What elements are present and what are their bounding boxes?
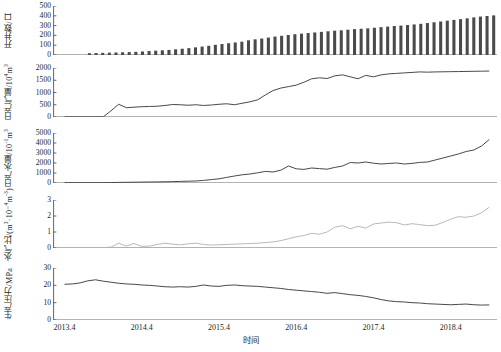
bar: [88, 53, 91, 55]
bar: [240, 42, 243, 55]
y-tick-label: 300: [40, 22, 51, 30]
data-line: [65, 71, 490, 117]
bar: [114, 52, 117, 55]
bar: [466, 18, 469, 55]
data-line: [65, 280, 490, 305]
bar: [472, 17, 475, 55]
y-axis-label-2: 日产水量/10-1m3: [2, 133, 18, 183]
bar: [227, 43, 230, 55]
y-tick-label: 0: [47, 51, 51, 59]
y-tick-label: 3000: [36, 149, 51, 157]
y-axis-label-4: 生产压力/MPa: [2, 268, 18, 320]
y-tick-label: 200: [40, 32, 51, 40]
bar: [234, 42, 237, 55]
y-axis-label-1: 日产气量/104m3: [2, 68, 18, 117]
x-axis-title: 时间: [0, 337, 501, 345]
y-axis-label-text-3: 水气比/(m3·10⁻4m-3): [6, 188, 14, 261]
bar: [194, 47, 197, 55]
y-axis-label-text-1: 日产气量/104m3: [6, 64, 14, 120]
y-ticks-2: 010002000300040005000: [18, 133, 52, 183]
y-tick-label: 3: [47, 196, 51, 204]
bar: [360, 29, 363, 55]
bar: [439, 21, 442, 55]
x-tick-label: 2017.4: [362, 324, 384, 332]
panel-1: 日产气量/104m30500100015002000: [0, 68, 501, 117]
y-tick-label: 4000: [36, 139, 51, 147]
bar: [320, 32, 323, 55]
bar: [380, 27, 383, 55]
bar: [426, 23, 429, 55]
bar: [101, 53, 104, 55]
bar: [108, 53, 111, 55]
plot-area-1: [53, 68, 497, 117]
bar: [134, 52, 137, 55]
bar: [128, 52, 131, 55]
bar: [433, 22, 436, 55]
bar: [141, 51, 144, 55]
bar: [486, 16, 489, 55]
bar: [326, 31, 329, 55]
y-tick-label: 10: [43, 299, 51, 307]
bar: [313, 32, 316, 55]
plot-area-3: [53, 200, 497, 248]
plot-area-4: [53, 268, 497, 320]
bar: [452, 20, 455, 55]
y-tick-label: 0: [47, 113, 51, 121]
x-tick-label: 2018.4: [440, 324, 462, 332]
bar: [167, 50, 170, 55]
panel-2: 日产水量/10-1m3010002000300040005000: [0, 133, 501, 183]
bar: [181, 49, 184, 55]
panel-0: 开井数/口0100200300400500: [0, 6, 501, 55]
bar: [393, 26, 396, 55]
y-tick-label: 100: [40, 41, 51, 49]
y-tick-label: 2000: [36, 64, 51, 72]
y-tick-label: 5000: [36, 129, 51, 137]
x-tick-label: 2016.4: [285, 324, 307, 332]
bar: [366, 28, 369, 55]
bar: [419, 24, 422, 55]
panel-3: 水气比/(m3·10⁻4m-3)0123: [0, 200, 501, 248]
bar: [492, 15, 495, 55]
bar: [260, 39, 263, 55]
x-tick-label: 2015.4: [208, 324, 230, 332]
bar: [406, 25, 409, 55]
y-axis-label-text-4: 生产压力/MPa: [6, 268, 14, 319]
y-ticks-4: 0102030: [18, 268, 52, 320]
bar: [307, 33, 310, 55]
bar: [386, 27, 389, 55]
y-tick-label: 30: [43, 264, 51, 272]
x-axis-tick-labels: 2013.42014.42015.42016.42017.42018.4: [0, 324, 501, 336]
y-tick-label: 2: [47, 212, 51, 220]
data-line: [65, 140, 490, 183]
y-ticks-3: 0123: [18, 200, 52, 248]
bar: [346, 30, 349, 55]
bar: [267, 38, 270, 55]
bar: [280, 36, 283, 55]
y-axis-label-text-0: 开井数/口: [6, 13, 14, 48]
bar: [187, 48, 190, 55]
bar: [459, 19, 462, 55]
bar: [340, 30, 343, 55]
plot-area-0: [53, 6, 497, 55]
y-tick-label: 0: [47, 244, 51, 252]
x-tick-label: 2014.4: [131, 324, 153, 332]
bar: [353, 29, 356, 55]
bar: [214, 45, 217, 55]
y-tick-label: 0: [47, 179, 51, 187]
x-tick-label: 2013.4: [54, 324, 76, 332]
y-axis-label-text-2: 日产水量/10-1m3: [6, 129, 14, 187]
bar: [207, 46, 210, 55]
bar: [220, 44, 223, 55]
y-tick-label: 500: [40, 2, 51, 10]
bar: [201, 47, 204, 55]
bar: [287, 35, 290, 55]
bar: [154, 51, 157, 55]
panel-4: 生产压力/MPa0102030: [0, 268, 501, 320]
y-tick-label: 1: [47, 228, 51, 236]
y-tick-label: 2000: [36, 159, 51, 167]
y-tick-label: 500: [40, 101, 51, 109]
bar: [293, 34, 296, 55]
y-tick-label: 400: [40, 12, 51, 20]
bar: [479, 17, 482, 55]
bar: [413, 24, 416, 55]
